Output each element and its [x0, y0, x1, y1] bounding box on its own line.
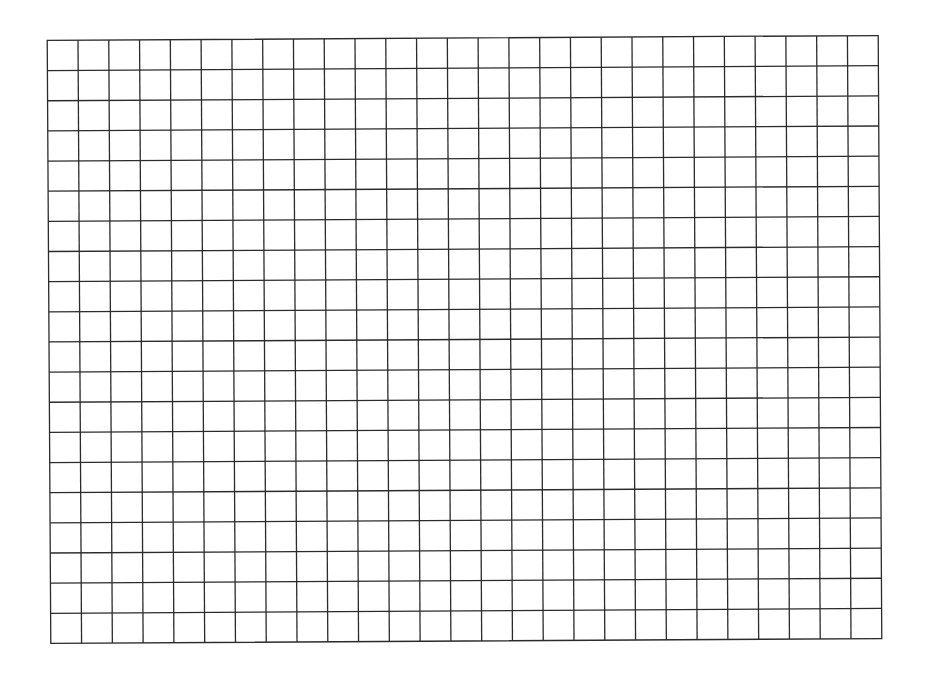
grid-horizontal-line: [50, 427, 881, 432]
grid-horizontal-line: [50, 518, 881, 523]
grid-horizontal-line: [49, 337, 880, 342]
grid-horizontal-line: [49, 397, 880, 402]
grid-group: [47, 36, 882, 644]
grid-horizontal-line: [51, 608, 882, 613]
blank-grid-sheet: [0, 0, 925, 677]
grid-horizontal-line: [48, 186, 879, 191]
grid-horizontal-line: [48, 96, 879, 101]
grid-horizontal-line: [49, 307, 880, 312]
grid-horizontal-line: [50, 488, 881, 493]
grid-horizontal-line: [48, 216, 879, 221]
grid-horizontal-line: [50, 458, 881, 463]
grid-horizontal-line: [48, 126, 879, 131]
grid-horizontal-line: [48, 247, 879, 252]
grid-horizontal-line: [48, 156, 879, 161]
grid-horizontal-line: [49, 367, 880, 372]
grid-horizontal-line: [47, 66, 878, 71]
grid-lines: [0, 0, 925, 677]
grid-horizontal-line: [50, 578, 881, 583]
grid-horizontal-line: [50, 548, 881, 553]
grid-horizontal-line: [49, 277, 880, 282]
